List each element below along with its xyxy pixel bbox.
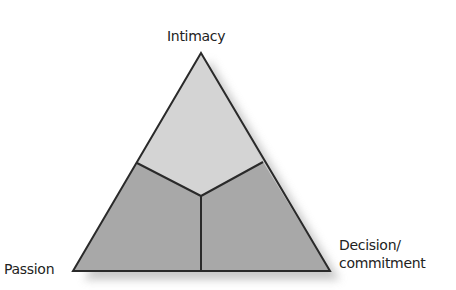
label-commitment: commitment (339, 255, 426, 271)
label-decision: Decision/ (339, 237, 401, 253)
label-intimacy: Intimacy (167, 28, 225, 44)
label-passion: Passion (4, 261, 54, 277)
triangle-diagram: Intimacy Passion Decision/ commitment (0, 0, 456, 290)
